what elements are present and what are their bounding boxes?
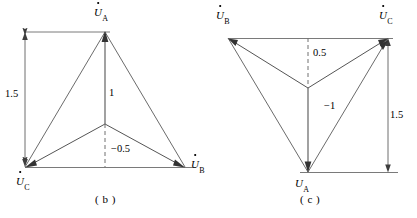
panel-b-label-u-a: UA	[94, 7, 108, 21]
phasor-dot-icon	[97, 2, 99, 4]
figure-root: UA UB UC 1 −0.5 1.5 ( b ) UB UC UA 0.5 −…	[0, 0, 417, 218]
panel-b-value-dimension-1-5: 1.5	[5, 89, 18, 100]
panel-c-label-u-a: UA	[295, 178, 309, 192]
phasor-dot-icon	[219, 5, 221, 7]
panel-c-label-u-b: UB	[216, 10, 229, 24]
panel-b-label-u-b: UB	[191, 159, 204, 173]
panel-b-label-u-c: UC	[16, 176, 29, 190]
panel-b-value-neutral-offset: −0.5	[111, 144, 130, 155]
panel-c-value-neutral-offset: 0.5	[313, 48, 326, 59]
panel-c-reference-lines	[228, 39, 398, 173]
panel-c-phasors	[228, 39, 389, 173]
panel-c-label-u-c: UC	[379, 10, 392, 24]
panel-b-dimension-1-5	[22, 32, 28, 167]
phasor-dot-icon	[194, 154, 196, 156]
panel-b-value-u-a-magnitude: 1	[109, 88, 114, 99]
panel-c-caption: ( c )	[300, 194, 320, 205]
panel-b-drawing	[0, 0, 417, 218]
phasor-dot-icon	[382, 5, 384, 7]
panel-c-value-dimension-1-5: 1.5	[390, 110, 403, 121]
panel-c-value-u-a-magnitude: −1	[324, 101, 335, 112]
phasor-dot-icon	[19, 171, 21, 173]
panel-c-dimension-1-5	[385, 38, 391, 173]
panel-b-caption: ( b )	[95, 194, 116, 205]
